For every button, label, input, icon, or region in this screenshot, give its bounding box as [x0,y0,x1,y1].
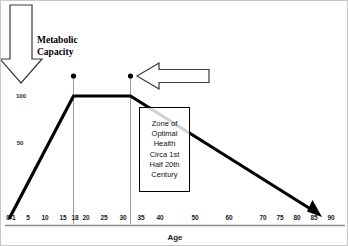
x-tick-label-75: 75 [276,214,283,221]
x-tick-label-90: 90 [327,214,334,221]
metabolic-capacity-line-1: Metabolic [37,34,117,46]
x-tick-label-25: 25 [100,214,107,221]
x-tick-label-5: 5 [26,214,30,221]
x-tick-label-85: 85 [310,214,317,221]
metabolic-capacity-annotation: MetabolicCapacity [37,34,117,58]
x-tick-label-60: 60 [225,214,232,221]
x-tick-label-50: 50 [191,214,198,221]
y-tick-label-100: 100 [16,93,26,99]
x-tick-label-40: 40 [156,214,163,221]
x-tick-label-10: 10 [41,214,48,221]
x-tick-label-30: 30 [119,214,126,221]
zone-of-optimal-health-box: Zone of Optimal Health Circa 1st Half 20… [139,107,190,192]
metabolic-capacity-line-2: Capacity [37,46,117,58]
marker-dot-age-18 [71,73,76,78]
x-tick-label-70: 70 [259,214,266,221]
x-tick-label-0-1: 0-1 [6,214,15,221]
down-arrow-icon [1,5,42,83]
marker-dot-age-34 [128,73,133,78]
x-axis-title: Age [167,233,182,242]
x-tick-label-15: 15 [59,214,66,221]
x-tick-label-35: 35 [137,214,144,221]
x-tick-label-80: 80 [293,214,300,221]
metabolic-capacity-figure: 100 50 0-1 5 10 15 18 20 25 30 35 40 50 … [0,0,348,246]
x-tick-label-20: 20 [82,214,89,221]
x-tick-label-18: 18 [71,214,78,221]
y-tick-label-50: 50 [17,140,24,146]
left-arrow-icon [137,63,209,89]
zone-of-optimal-health-text: Zone of Optimal Health Circa 1st Half 20… [149,119,179,180]
